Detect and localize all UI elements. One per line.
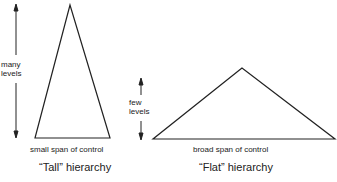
tall-span-label: small span of control: [30, 145, 103, 154]
diagram-canvas: [0, 0, 337, 182]
tall-caption: “Tall” hierarchy: [39, 161, 111, 173]
flat-levels-label: few levels: [129, 98, 149, 116]
many-text: many: [1, 60, 21, 69]
tall-triangle: [35, 5, 110, 138]
flat-span-label: broad span of control: [193, 145, 268, 154]
levels-text: levels: [129, 107, 149, 116]
tall-levels-label: many levels: [1, 60, 21, 78]
levels-text: levels: [1, 69, 21, 78]
flat-caption: “Flat” hierarchy: [199, 161, 273, 173]
few-text: few: [129, 98, 149, 107]
flat-triangle: [153, 68, 335, 139]
